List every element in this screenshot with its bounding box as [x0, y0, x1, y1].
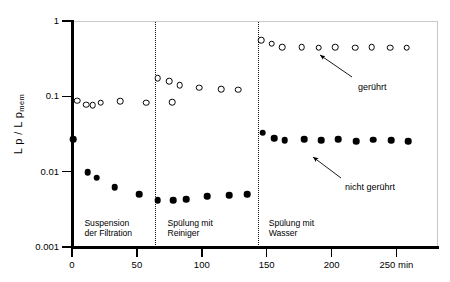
phase-label: Suspension der Filtration	[84, 218, 132, 239]
data-point-nicht-geruehrt	[405, 138, 412, 145]
y-tick-label: 0.01	[41, 166, 60, 177]
x-tick-mark	[71, 248, 73, 257]
x-tick-mark	[136, 248, 138, 257]
data-point-geruehrt	[176, 82, 183, 89]
data-point-geruehrt	[218, 86, 225, 93]
data-point-geruehrt	[97, 100, 104, 107]
data-point-nicht-geruehrt	[335, 136, 342, 143]
y-tick-mark	[62, 96, 73, 98]
y-axis-title-main: L p / L p	[12, 112, 24, 155]
chart-root: L p / L pmem 10.10.010.001 0501001502002…	[0, 0, 450, 282]
x-tick-mark	[266, 248, 268, 257]
data-point-geruehrt	[169, 99, 176, 106]
phase-divider-line	[155, 22, 156, 247]
data-point-nicht-geruehrt	[226, 192, 233, 199]
data-point-geruehrt	[196, 84, 203, 91]
data-point-nicht-geruehrt	[183, 196, 190, 203]
y-tick-label: 0.1	[46, 90, 59, 101]
data-point-nicht-geruehrt	[244, 191, 251, 198]
y-tick-label: 0.001	[35, 241, 59, 252]
data-point-geruehrt	[258, 37, 265, 44]
x-tick-mark	[201, 248, 203, 257]
data-point-nicht-geruehrt	[282, 137, 289, 144]
data-point-nicht-geruehrt	[318, 137, 325, 144]
y-axis-title-sub: mem	[17, 94, 26, 112]
data-point-geruehrt	[143, 100, 150, 107]
data-point-nicht-geruehrt	[170, 197, 177, 204]
x-tick-label: 250 min	[380, 259, 414, 270]
series-annotation-label: nicht gerührt	[345, 182, 395, 192]
data-point-nicht-geruehrt	[154, 197, 161, 204]
y-axis-title: L p / L pmem	[12, 54, 24, 194]
data-point-geruehrt	[387, 45, 394, 52]
y-tick-label: 1	[54, 15, 59, 26]
series-annotation-label: gerührt	[358, 82, 387, 92]
y-axis-line	[71, 20, 74, 248]
x-tick-mark	[331, 248, 333, 257]
data-point-nicht-geruehrt	[271, 135, 278, 142]
data-point-geruehrt	[369, 44, 376, 51]
data-point-geruehrt	[235, 87, 242, 94]
data-point-nicht-geruehrt	[301, 136, 308, 143]
phase-divider-line	[258, 22, 259, 247]
data-point-geruehrt	[315, 45, 322, 52]
data-point-nicht-geruehrt	[93, 174, 100, 181]
x-tick-label: 150	[259, 259, 275, 270]
data-point-geruehrt	[117, 98, 124, 105]
data-point-nicht-geruehrt	[259, 129, 266, 136]
x-tick-mark	[396, 248, 398, 257]
data-point-nicht-geruehrt	[136, 191, 143, 198]
x-tick-label: 50	[132, 259, 143, 270]
y-tick-mark	[62, 20, 73, 22]
data-point-nicht-geruehrt	[370, 136, 377, 143]
data-point-geruehrt	[166, 78, 173, 85]
data-point-nicht-geruehrt	[84, 169, 91, 176]
data-point-nicht-geruehrt	[112, 184, 119, 191]
data-point-geruehrt	[269, 40, 276, 47]
data-point-geruehrt	[298, 44, 305, 51]
data-point-geruehrt	[279, 44, 286, 51]
x-axis-line	[71, 246, 439, 249]
y-tick-mark	[62, 171, 73, 173]
data-point-geruehrt	[74, 97, 81, 104]
data-point-nicht-geruehrt	[204, 193, 211, 200]
phase-label: Spülung mit Reiniger	[167, 218, 212, 239]
data-point-nicht-geruehrt	[388, 137, 395, 144]
data-point-nicht-geruehrt	[353, 138, 360, 145]
x-tick-label: 0	[69, 259, 74, 270]
data-point-geruehrt	[404, 45, 411, 52]
data-point-nicht-geruehrt	[70, 136, 77, 143]
data-point-geruehrt	[352, 45, 359, 52]
x-tick-label: 100	[194, 259, 210, 270]
data-point-geruehrt	[89, 102, 96, 109]
data-point-geruehrt	[154, 75, 161, 82]
data-point-geruehrt	[332, 44, 339, 51]
plot-frame	[72, 21, 438, 247]
x-tick-label: 200	[324, 259, 340, 270]
phase-label: Spülung mit Wasser	[269, 218, 314, 239]
